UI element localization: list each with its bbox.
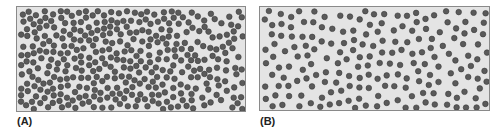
particle (128, 66, 134, 72)
particle (312, 47, 318, 53)
particle (123, 80, 129, 86)
particle (162, 90, 168, 96)
particle (138, 12, 144, 18)
particle (357, 54, 363, 60)
particle (272, 41, 278, 47)
particle (193, 86, 199, 92)
particle (224, 32, 230, 38)
particle (58, 84, 64, 90)
particle (453, 81, 459, 87)
particle (269, 22, 275, 28)
particle (411, 60, 417, 66)
particle (23, 102, 29, 108)
particle (164, 75, 170, 81)
particle (366, 85, 372, 91)
particle (410, 51, 416, 57)
particle (380, 38, 386, 44)
particle (440, 43, 446, 49)
particle (103, 39, 109, 45)
particle (319, 95, 325, 101)
particle (278, 11, 284, 17)
particle (263, 47, 269, 53)
particle (484, 50, 490, 56)
particle (346, 98, 352, 104)
particle (155, 19, 161, 25)
particle (185, 84, 191, 90)
particle (18, 62, 24, 68)
particle (212, 16, 218, 22)
particle (142, 96, 148, 102)
particle (42, 95, 48, 101)
particle (95, 8, 101, 14)
particle (86, 99, 92, 105)
particle (37, 48, 43, 54)
particle (180, 15, 186, 21)
particle (91, 94, 97, 100)
particle (39, 55, 45, 61)
particle (300, 67, 306, 73)
particle (84, 85, 90, 91)
particle (309, 34, 315, 40)
particle (384, 73, 390, 79)
particle (140, 27, 146, 33)
particle (65, 63, 71, 69)
particle (72, 56, 78, 62)
particle (43, 15, 49, 21)
particle (59, 105, 65, 111)
particle (195, 14, 201, 20)
particle (126, 74, 132, 80)
particle (117, 101, 123, 107)
particle (31, 50, 37, 56)
panel-a-label: (A) (17, 115, 32, 127)
particle (423, 16, 429, 22)
particle (36, 77, 42, 83)
particle (236, 54, 242, 60)
particle (78, 28, 84, 34)
particle (357, 17, 363, 23)
particle (379, 50, 385, 56)
particle (134, 30, 140, 36)
particle (114, 85, 120, 91)
particle (200, 43, 206, 49)
particle (128, 58, 134, 64)
particle (73, 105, 79, 111)
particle (34, 36, 40, 42)
particle (304, 76, 310, 82)
particle (21, 19, 27, 25)
particle (355, 64, 361, 70)
particle (171, 15, 177, 21)
particle (360, 42, 366, 48)
particle (79, 68, 85, 74)
particle (80, 101, 86, 107)
particle (90, 13, 96, 19)
particle (99, 56, 105, 62)
particle (31, 60, 37, 66)
particle (233, 65, 239, 71)
particle (477, 86, 483, 92)
particle (333, 80, 339, 86)
particle (57, 98, 63, 104)
particle (341, 40, 347, 46)
particle (78, 60, 84, 66)
particle (319, 39, 325, 45)
particle (363, 8, 369, 14)
particle (58, 91, 64, 97)
particle (231, 85, 237, 91)
particle (71, 20, 77, 26)
particle (263, 96, 269, 102)
particle (35, 66, 41, 72)
particle (73, 65, 79, 71)
particle (453, 58, 459, 64)
particle (446, 51, 452, 57)
particle (178, 91, 184, 97)
particle (69, 43, 75, 49)
particle (65, 50, 71, 56)
particle (422, 61, 428, 67)
particle (135, 97, 141, 103)
particle (114, 27, 120, 33)
particle (379, 20, 385, 26)
particle (217, 34, 223, 40)
particle (161, 16, 167, 22)
particle (197, 28, 203, 34)
particles-a (17, 7, 246, 112)
